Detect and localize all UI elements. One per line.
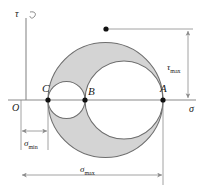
mohr-circle-diagram: O σ τ C B A τmax σmin σmax [0,0,205,195]
point-B-marker [82,97,87,102]
tau-axis-label: τ [15,8,19,19]
tau-max-subscript: max [170,68,180,74]
sigma-max-subscript: max [84,170,94,176]
point-tau-max-marker [103,26,108,31]
point-label-A: A [159,82,167,94]
point-A-marker [160,97,165,102]
origin-label: O [12,102,19,113]
point-C-marker [45,97,50,102]
point-label-B: B [88,85,95,97]
point-label-C: C [42,82,50,94]
sigma-min-subscript: min [28,144,37,150]
diagram-canvas: O σ τ C B A τmax σmin σmax [0,0,205,195]
